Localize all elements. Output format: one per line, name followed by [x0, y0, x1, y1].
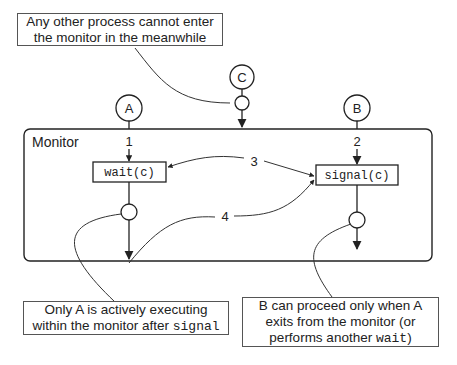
signal-operation-label: signal(c): [325, 169, 390, 183]
bottom-left-leader: [74, 214, 121, 302]
top-note-line-1: Any other process cannot enter: [22, 14, 218, 30]
condition-queue-a-circle: [121, 204, 137, 220]
monitor-boundary: [24, 129, 432, 261]
bottom-left-note-line-2: within the monitor after: [32, 318, 172, 333]
bottom-right-note-line-2: exits from the monitor (or: [247, 314, 434, 330]
top-note-line-2: the monitor in the meanwhile: [22, 30, 218, 46]
step-4-arrow: [234, 180, 314, 216]
process-c: C: [230, 65, 254, 127]
process-b: B 2 signal(c): [316, 95, 398, 249]
bottom-left-note-line-1: Only A is actively executing: [28, 302, 224, 318]
step-4-line: [129, 217, 215, 263]
monitor-label: Monitor: [32, 134, 79, 150]
step-2-label: 2: [353, 134, 360, 149]
step-3-label: 3: [250, 154, 257, 169]
condition-queue-b-circle: [349, 212, 365, 228]
wait-operation-label: wait(c): [104, 166, 154, 180]
step-1-label: 1: [125, 134, 132, 149]
process-b-label: B: [353, 101, 362, 116]
top-note-leader: [135, 48, 230, 103]
bottom-left-note: Only A is actively executing within the …: [23, 301, 229, 335]
bottom-left-note-code: signal: [173, 319, 220, 334]
top-note: Any other process cannot enter the monit…: [17, 13, 223, 46]
step-4-label: 4: [221, 209, 228, 224]
bottom-right-note-code: wait: [376, 331, 407, 346]
process-c-label: C: [237, 70, 246, 85]
process-a-label: A: [125, 101, 134, 116]
entry-queue-circle: [235, 96, 249, 110]
bottom-right-note-line-1: B can proceed only when A: [247, 298, 434, 314]
process-a: A 1 wait(c): [93, 95, 166, 259]
bottom-right-note-line-3: performs another: [269, 330, 376, 345]
step-3-arrow-right: [264, 161, 314, 176]
step-3-arrow-left: [168, 156, 244, 167]
bottom-right-note: B can proceed only when A exits from the…: [242, 297, 439, 347]
bottom-right-note-line-3-end: ): [407, 330, 412, 345]
